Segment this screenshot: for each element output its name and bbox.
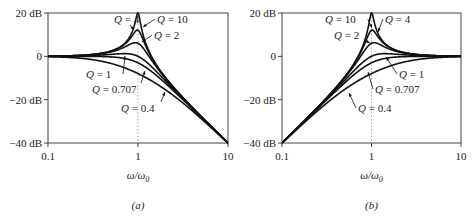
q-annotation: Q = 10 [325, 13, 356, 25]
x-axis-title: ω/ω0 [127, 169, 150, 184]
chart-panel-a-lowpass: 20 dB0−20 dB−40 dB0.1110Q = 4Q = 10Q = 2… [9, 7, 234, 212]
y-tick-label: 20 dB [15, 7, 42, 19]
y-tick-label: 20 dB [249, 7, 276, 19]
x-axis-title: ω/ω0 [360, 169, 383, 184]
x-tick-label: 0.1 [275, 150, 289, 162]
q-annotation: Q = 10 [157, 13, 188, 25]
x-tick-label: 1 [135, 150, 141, 162]
q-annotation: Q = 4 [385, 13, 411, 25]
q-annotation: Q = 0.707 [375, 83, 420, 95]
y-tick-label: −20 dB [243, 94, 276, 106]
arrowhead-icon [143, 24, 147, 27]
x-tick-label: 0.1 [41, 150, 55, 162]
panel-caption: (a) [132, 199, 145, 212]
q-annotation: Q = 0.707 [92, 83, 137, 95]
arrowhead-icon [378, 28, 381, 32]
x-tick-label: 10 [223, 150, 235, 162]
arrowhead-icon [162, 92, 165, 96]
y-tick-label: 0 [37, 50, 43, 62]
x-tick-label: 1 [369, 150, 375, 162]
y-tick-label: −40 dB [243, 137, 276, 149]
arrowhead-icon [142, 71, 145, 75]
q-annotation: Q = 0.4 [358, 102, 392, 114]
y-tick-label: 0 [271, 50, 277, 62]
y-tick-label: −20 dB [9, 94, 42, 106]
q-annotation: Q = 2 [154, 29, 179, 41]
panel-caption: (b) [365, 199, 378, 212]
q-annotation: Q = 1 [86, 68, 111, 80]
q-annotation: Q = 0.4 [121, 102, 155, 114]
y-tick-label: −40 dB [9, 137, 42, 149]
x-tick-label: 10 [456, 150, 468, 162]
chart-panel-b-highpass: 20 dB0−20 dB−40 dB0.1110Q = 10Q = 4Q = 2… [243, 7, 467, 212]
q-annotation: Q = 4 [114, 13, 140, 25]
bode-magnitude-figure: 20 dB0−20 dB−40 dB0.1110Q = 4Q = 10Q = 2… [0, 0, 473, 218]
q-annotation: Q = 1 [399, 68, 424, 80]
q-annotation: Q = 2 [334, 29, 359, 41]
